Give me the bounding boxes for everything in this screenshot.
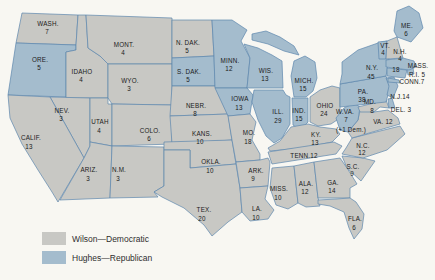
legend: Wilson—Democratic Hughes—Republican [42, 232, 153, 264]
label-del: DEL. 3 [391, 106, 412, 113]
legend-swatch-hughes [42, 251, 66, 264]
us-map: WASH.7 ORE.5 CALIF.13 NEV.3 IDAHO4 UTAH4… [0, 0, 435, 280]
state-ny-long-island [388, 78, 400, 83]
state-colo [112, 104, 172, 146]
legend-label-hughes: Hughes—Republican [72, 253, 153, 263]
electoral-map-1916: WASH.7 ORE.5 CALIF.13 NEV.3 IDAHO4 UTAH4… [0, 0, 435, 280]
state-shapes [8, 6, 423, 239]
label-va: VA. 12 [373, 118, 393, 125]
label-nj: N.J.14 [390, 93, 410, 100]
label-mass: MASS. [408, 62, 429, 69]
state-wyo [108, 64, 172, 105]
state-minn [212, 20, 250, 88]
label-tenn: TENN.12 [290, 152, 318, 159]
label-conn: CONN.7 [400, 78, 425, 85]
legend-label-wilson: Wilson—Democratic [72, 234, 150, 244]
label-mass-votes: 18 [392, 66, 400, 73]
legend-swatch-wilson [42, 232, 66, 245]
label-ri: R.I. 5 [409, 71, 426, 78]
